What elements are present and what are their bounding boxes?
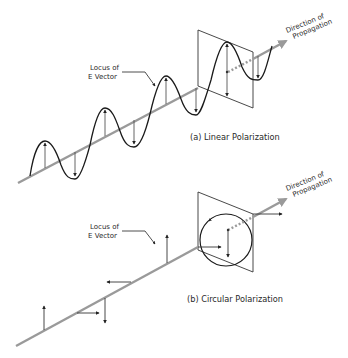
e-vectors <box>44 214 282 330</box>
locus-label-line1: Locus of <box>90 64 119 72</box>
direction-label: Direction of Propagation <box>285 10 334 42</box>
panel-circular-polarization: Locus of E Vector Direction of Propagati… <box>16 168 333 346</box>
propagation-axis <box>18 88 198 183</box>
locus-leader-line <box>122 72 155 86</box>
caption-linear: (a) Linear Polarization <box>190 132 280 142</box>
propagation-axis <box>16 247 198 346</box>
polarization-plane <box>198 192 253 272</box>
locus-label-line2: E Vector <box>88 232 117 240</box>
polarization-diagram: Locus of E Vector Direction of Propagati… <box>0 0 348 358</box>
e-vector-locus-circle <box>200 214 252 266</box>
direction-label: Direction of Propagation <box>285 168 334 200</box>
panel-linear-polarization: Locus of E Vector Direction of Propagati… <box>18 10 333 183</box>
locus-label-line1: Locus of <box>90 223 119 231</box>
locus-label-line2: E Vector <box>88 73 117 81</box>
locus-leader-line <box>122 231 155 244</box>
caption-circular: (b) Circular Polarization <box>187 294 283 304</box>
